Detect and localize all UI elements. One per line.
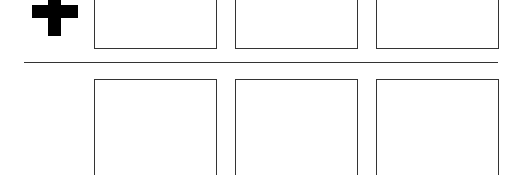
bottom-box-2 <box>235 79 358 175</box>
plus-icon[interactable] <box>32 0 78 36</box>
bottom-box-3 <box>376 79 499 175</box>
plus-icon-vertical-bar <box>48 0 61 36</box>
top-box-2 <box>235 0 358 49</box>
divider-line <box>24 62 498 63</box>
top-box-3 <box>376 0 499 49</box>
bottom-box-1 <box>94 79 217 175</box>
top-box-1 <box>94 0 217 49</box>
